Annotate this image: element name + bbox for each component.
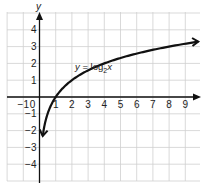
x-tick-label: 3 — [85, 99, 91, 110]
x-tick-label: 4 — [102, 99, 108, 110]
function-curve — [40, 38, 199, 136]
x-tick-label: 5 — [118, 99, 124, 110]
x-tick-label: 7 — [150, 99, 156, 110]
x-tick-label: 2 — [69, 99, 75, 110]
y-axis-label: y — [35, 1, 42, 12]
function-label: y = log2x — [74, 61, 113, 74]
y-tick-label: −2 — [25, 125, 37, 136]
y-tick-label: 2 — [31, 58, 37, 69]
y-tick-label: −3 — [25, 142, 37, 153]
x-tick-label: 6 — [134, 99, 140, 110]
x-tick-label: 9 — [183, 99, 189, 110]
y-tick-label: 4 — [31, 24, 37, 35]
y-tick-label: −4 — [25, 159, 37, 170]
y-tick-label: −1 — [25, 108, 37, 119]
x-tick-label: 8 — [166, 99, 172, 110]
y-tick-label: 3 — [31, 41, 37, 52]
y-tick-label: 1 — [31, 75, 37, 86]
log2-graph: −101234567894321−1−2−3−4 y y = log2x — [0, 0, 202, 184]
